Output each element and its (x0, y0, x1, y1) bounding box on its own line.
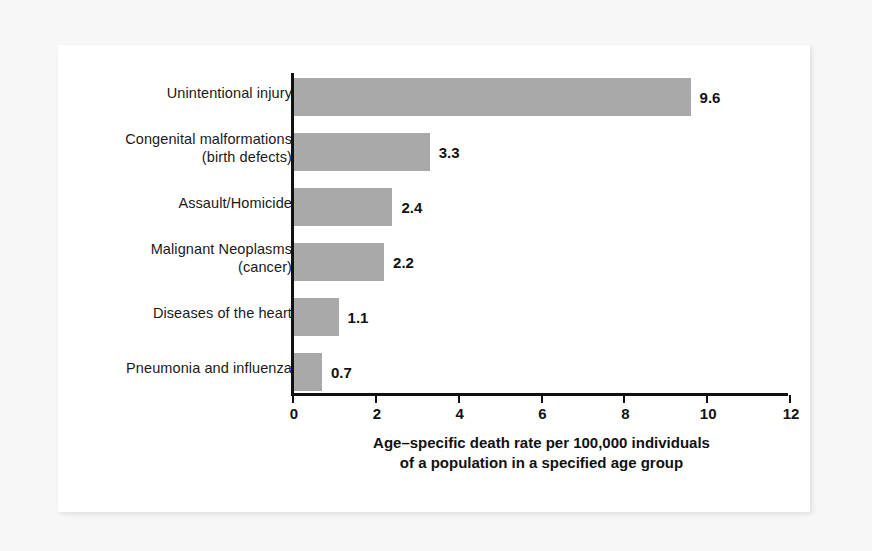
x-axis-title: Age–specific death rate per 100,000 indi… (218, 433, 865, 474)
category-label-line1: Assault/Homicide (178, 195, 292, 211)
bar-and-value: 0.7 (293, 353, 352, 391)
x-axis-tick (375, 395, 377, 403)
page-root: Unintentional injury9.6Congenital malfor… (0, 0, 872, 551)
bar-and-value: 2.4 (293, 188, 422, 226)
x-axis-tick (458, 395, 460, 403)
category-label-line2: (birth defects) (42, 149, 292, 167)
x-axis-tick (541, 395, 543, 403)
category-label-line1: Diseases of the heart (153, 305, 292, 321)
category-label: Assault/Homicide (42, 195, 292, 213)
category-label-line1: Malignant Neoplasms (151, 241, 292, 257)
bar-value-label: 3.3 (439, 145, 460, 160)
category-label: Unintentional injury (42, 85, 292, 103)
bar (293, 243, 384, 281)
x-axis-tick-label: 10 (688, 405, 728, 422)
category-label-line1: Unintentional injury (167, 85, 292, 101)
x-axis-tick (292, 395, 294, 403)
x-axis-tick-label: 2 (357, 405, 397, 422)
bar-value-label: 2.2 (393, 255, 414, 270)
bar-and-value: 3.3 (293, 133, 460, 171)
bar (293, 353, 322, 391)
figure-card: Unintentional injury9.6Congenital malfor… (58, 45, 810, 512)
bar-value-label: 1.1 (348, 310, 369, 325)
x-axis-title-line1: Age–specific death rate per 100,000 indi… (373, 434, 710, 451)
x-axis-tick (706, 395, 708, 403)
bar (293, 298, 339, 336)
x-axis-tick-label: 6 (523, 405, 563, 422)
bar-and-value: 9.6 (293, 78, 720, 116)
bar (293, 133, 430, 171)
bar (293, 78, 691, 116)
bar-row: Unintentional injury9.6 (58, 70, 810, 125)
bar-row: Assault/Homicide2.4 (58, 180, 810, 235)
bar-value-label: 2.4 (401, 200, 422, 215)
bar-row: Diseases of the heart1.1 (58, 290, 810, 345)
bar-row: Congenital malformations(birth defects)3… (58, 125, 810, 180)
category-label: Pneumonia and influenza (42, 360, 292, 378)
category-label-line1: Pneumonia and influenza (126, 360, 292, 376)
bar-and-value: 1.1 (293, 298, 368, 336)
bar-and-value: 2.2 (293, 243, 414, 281)
x-axis-tick-label: 4 (440, 405, 480, 422)
x-axis-tick-label: 12 (771, 405, 811, 422)
bar-value-label: 0.7 (331, 365, 352, 380)
x-axis-tick (623, 395, 625, 403)
bar-chart: Unintentional injury9.6Congenital malfor… (58, 45, 810, 512)
x-axis-line (291, 393, 788, 396)
bar-value-label: 9.6 (700, 90, 721, 105)
x-axis-title-line2: of a population in a specified age group (218, 453, 865, 473)
x-axis-tick-label: 0 (274, 405, 314, 422)
y-axis-line (291, 73, 294, 393)
bar (293, 188, 392, 226)
bar-row: Pneumonia and influenza0.7 (58, 345, 810, 400)
category-label-line2: (cancer) (42, 259, 292, 277)
category-label: Malignant Neoplasms(cancer) (42, 241, 292, 276)
bar-row: Malignant Neoplasms(cancer)2.2 (58, 235, 810, 290)
x-axis-tick-label: 8 (605, 405, 645, 422)
category-label-line1: Congenital malformations (125, 131, 292, 147)
category-label: Congenital malformations(birth defects) (42, 131, 292, 166)
x-axis-tick (789, 395, 791, 403)
category-label: Diseases of the heart (42, 305, 292, 323)
